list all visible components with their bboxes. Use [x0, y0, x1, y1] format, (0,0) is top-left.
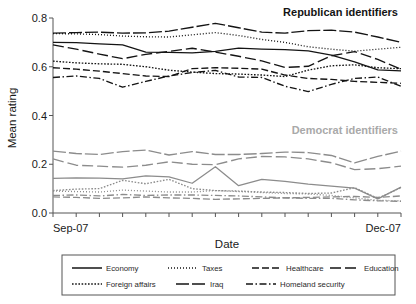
legend-label-education[interactable]: Education: [364, 264, 399, 273]
line-economy: [53, 167, 401, 199]
x-axis-title: Date: [215, 238, 239, 250]
plot-axes: [53, 18, 401, 213]
y-tick-label-0.0: 0.0: [32, 207, 47, 219]
line-chart: 0.8 0.6 0.4 0.2 0.0 Mean rating Sep-07 D…: [0, 0, 416, 304]
y-tick-label-0.8: 0.8: [32, 12, 47, 24]
annotation-republican: Republican identifiers: [283, 6, 398, 18]
y-tick-label-0.2: 0.2: [32, 158, 47, 170]
x-tick-label-start: Sep-07: [53, 222, 88, 234]
line-economy: [53, 42, 401, 71]
legend-label-economy[interactable]: Economy: [106, 264, 139, 273]
line-education: [53, 156, 401, 169]
legend-label-foreign-affairs[interactable]: Foreign affairs: [106, 280, 156, 289]
legend-border: [62, 255, 395, 295]
line-iraq: [53, 23, 401, 42]
legend: EconomyTaxesHealthcareEducationForeign a…: [62, 255, 399, 295]
annotation-democrat: Democrat identifiers: [292, 124, 398, 136]
line-taxes: [53, 33, 401, 52]
line-homeland-security: [53, 70, 401, 91]
line-healthcare: [53, 196, 401, 199]
x-axis-ticks: [53, 213, 401, 217]
line-iraq: [53, 150, 401, 163]
chart-root: 0.8 0.6 0.4 0.2 0.0 Mean rating Sep-07 D…: [0, 0, 416, 304]
legend-items: EconomyTaxesHealthcareEducationForeign a…: [72, 264, 399, 289]
legend-label-taxes[interactable]: Taxes: [202, 264, 222, 273]
legend-label-homeland-security[interactable]: Homeland security: [280, 280, 345, 289]
data-series-layer: [53, 23, 401, 201]
series-group-republican-identifiers: [53, 23, 401, 91]
y-axis-title: Mean rating: [6, 88, 18, 149]
legend-label-healthcare[interactable]: Healthcare: [286, 264, 324, 273]
y-tick-label-0.4: 0.4: [32, 110, 47, 122]
series-group-democrat-identifiers: [53, 150, 401, 201]
x-tick-label-end: Dec-07: [366, 222, 401, 234]
y-tick-label-0.6: 0.6: [32, 61, 47, 73]
line-healthcare: [53, 68, 401, 84]
legend-label-iraq[interactable]: Iraq: [210, 280, 223, 289]
line-foreign-affairs: [53, 179, 401, 198]
y-axis-ticks: [49, 18, 53, 213]
